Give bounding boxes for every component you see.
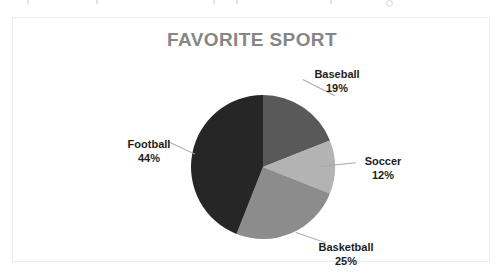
scan-artifact	[27, 0, 29, 4]
slice-label-basketball: Basketball 25%	[308, 240, 384, 268]
slice-label-basketball-name: Basketball	[318, 241, 373, 253]
pie-chart-container: FAVORITE SPORT Baseball 19% Soccer 12% B…	[12, 17, 490, 262]
slice-label-baseball-name: Baseball	[314, 68, 359, 80]
slice-label-basketball-percent: 25%	[308, 254, 384, 268]
slice-label-soccer: Soccer 12%	[355, 154, 411, 182]
slice-label-baseball: Baseball 19%	[304, 67, 370, 95]
slice-label-football-name: Football	[128, 138, 171, 150]
pie-slices	[191, 95, 335, 239]
pie-svg	[179, 83, 347, 251]
slice-label-football-percent: 44%	[116, 151, 182, 165]
scan-artifact	[96, 0, 98, 4]
scan-artifact	[236, 0, 238, 4]
chart-title: FAVORITE SPORT	[13, 29, 491, 51]
scan-artifact-strip	[0, 0, 504, 12]
pie-graphic	[179, 83, 347, 251]
slice-label-baseball-percent: 19%	[304, 81, 370, 95]
slice-label-soccer-percent: 12%	[355, 168, 411, 182]
slice-label-soccer-name: Soccer	[365, 155, 402, 167]
slice-label-football: Football 44%	[116, 137, 182, 165]
scan-artifact	[386, 0, 393, 7]
scan-artifact	[330, 0, 332, 4]
scan-artifact	[213, 0, 215, 4]
